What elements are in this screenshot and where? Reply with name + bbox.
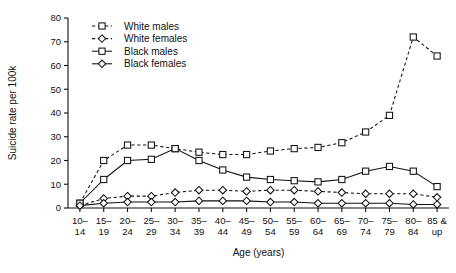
x-axis-tick-label: 79 bbox=[384, 226, 395, 237]
x-axis-tick-label: up bbox=[432, 226, 443, 237]
data-point bbox=[338, 200, 345, 207]
data-point bbox=[386, 200, 393, 207]
data-point bbox=[267, 148, 273, 154]
x-axis-tick-label: 65– bbox=[334, 215, 351, 226]
x-axis-tick-label: 70– bbox=[358, 215, 375, 226]
data-point bbox=[172, 146, 178, 152]
y-axis-tick-label: 10 bbox=[50, 179, 61, 190]
data-point bbox=[433, 201, 440, 208]
x-axis-tick-label: 24 bbox=[122, 226, 133, 237]
x-axis-tick-label: 14 bbox=[75, 226, 86, 237]
x-axis-tick-label: 85 & bbox=[427, 215, 447, 226]
data-point bbox=[363, 129, 369, 135]
x-axis-tick-label: 60– bbox=[310, 215, 327, 226]
series-white-females bbox=[76, 186, 441, 209]
data-point bbox=[410, 34, 416, 40]
y-axis-tick-label: 80 bbox=[50, 12, 61, 23]
x-axis-tick-label: 45– bbox=[239, 215, 256, 226]
data-point bbox=[339, 140, 345, 146]
x-axis-tick-label: 74 bbox=[360, 226, 371, 237]
y-axis-tick-label: 60 bbox=[50, 60, 61, 71]
data-point bbox=[148, 198, 155, 205]
x-axis-tick-label: 35– bbox=[191, 215, 208, 226]
data-point bbox=[315, 144, 321, 150]
y-axis-tick-label: 0 bbox=[56, 202, 61, 213]
data-point bbox=[410, 168, 416, 174]
data-point bbox=[363, 168, 369, 174]
data-point bbox=[195, 197, 202, 204]
series-line bbox=[80, 201, 437, 206]
x-axis-tick-label: 34 bbox=[170, 226, 181, 237]
x-axis-tick-label: 59 bbox=[289, 226, 300, 237]
x-axis-tick-label: 55– bbox=[286, 215, 303, 226]
x-axis-tick-label: 84 bbox=[408, 226, 419, 237]
data-point bbox=[195, 186, 202, 193]
data-point bbox=[219, 186, 226, 193]
y-axis-tick-label: 50 bbox=[50, 84, 61, 95]
x-axis-tick-label: 64 bbox=[313, 226, 324, 237]
data-point bbox=[362, 200, 369, 207]
x-axis-tick-label: 54 bbox=[265, 226, 276, 237]
data-point bbox=[338, 189, 345, 196]
data-point bbox=[291, 146, 297, 152]
legend-label: Black males bbox=[124, 46, 178, 57]
data-point bbox=[434, 184, 440, 190]
x-axis-tick-label: 69 bbox=[337, 226, 348, 237]
y-axis-tick-label: 30 bbox=[50, 131, 61, 142]
x-axis-tick-label: 19 bbox=[98, 226, 109, 237]
x-axis-tick-label: 10– bbox=[72, 215, 89, 226]
data-point bbox=[243, 174, 249, 180]
x-axis-tick-label: 25– bbox=[143, 215, 160, 226]
legend-marker bbox=[98, 35, 105, 42]
x-axis-tick-label: 29 bbox=[146, 226, 157, 237]
data-point bbox=[386, 190, 393, 197]
chart-legend: White malesWhite femalesBlack malesBlack… bbox=[92, 21, 187, 70]
y-axis-tick-label: 20 bbox=[50, 155, 61, 166]
data-point bbox=[100, 200, 107, 207]
data-point bbox=[124, 157, 130, 163]
x-axis-tick-label: 20– bbox=[120, 215, 137, 226]
data-point bbox=[219, 197, 226, 204]
legend-label: White females bbox=[124, 33, 187, 44]
data-point bbox=[314, 188, 321, 195]
x-axis-tick-label: 49 bbox=[241, 226, 252, 237]
data-point bbox=[291, 198, 298, 205]
data-point bbox=[434, 53, 440, 59]
data-point bbox=[243, 151, 249, 157]
y-axis-tick-label: 40 bbox=[50, 107, 61, 118]
data-point bbox=[124, 198, 131, 205]
data-point bbox=[101, 157, 107, 163]
data-point bbox=[243, 188, 250, 195]
data-point bbox=[362, 190, 369, 197]
x-axis-tick-label: 75– bbox=[382, 215, 399, 226]
y-axis-tick-label: 70 bbox=[50, 36, 61, 47]
x-axis-tick-label: 44 bbox=[217, 226, 228, 237]
legend-label: Black females bbox=[124, 58, 186, 69]
data-point bbox=[315, 179, 321, 185]
data-point bbox=[339, 176, 345, 182]
data-point bbox=[220, 167, 226, 173]
data-point bbox=[171, 198, 178, 205]
x-axis-tick-label: 15– bbox=[96, 215, 113, 226]
suicide-rate-by-age-chart: 01020304050607080Suicide rate per 100k10… bbox=[0, 0, 456, 273]
data-point bbox=[243, 197, 250, 204]
data-point bbox=[386, 112, 392, 118]
legend-marker bbox=[99, 48, 105, 54]
data-point bbox=[410, 190, 417, 197]
data-point bbox=[291, 178, 297, 184]
data-point bbox=[171, 189, 178, 196]
x-axis-tick-label: 39 bbox=[194, 226, 205, 237]
data-point bbox=[410, 201, 417, 208]
series-line bbox=[80, 149, 437, 204]
data-point bbox=[101, 176, 107, 182]
legend-label: White males bbox=[124, 21, 179, 32]
x-axis-tick-label: 80– bbox=[405, 215, 422, 226]
data-point bbox=[433, 194, 440, 201]
data-point bbox=[124, 142, 130, 148]
y-axis-title: Suicide rate per 100k bbox=[7, 65, 18, 161]
data-point bbox=[314, 200, 321, 207]
x-axis-tick-label: 50– bbox=[262, 215, 279, 226]
data-point bbox=[196, 149, 202, 155]
legend-marker bbox=[98, 60, 105, 67]
data-point bbox=[148, 156, 154, 162]
